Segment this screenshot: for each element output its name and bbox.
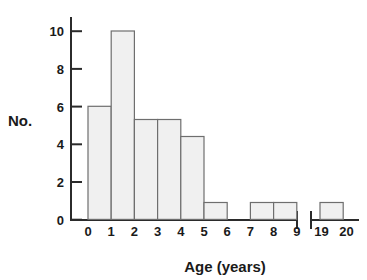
bar-3-4: [158, 120, 181, 220]
y-tick-label-2: 2: [57, 175, 64, 190]
x-tick-label-2: 2: [131, 224, 138, 239]
x-axis-title: Age (years): [184, 258, 266, 275]
bar-8-9: [274, 203, 297, 220]
y-tick-label-8: 8: [57, 62, 64, 77]
x-tick-label-9: 9: [293, 224, 300, 239]
y-tick-label-0: 0: [57, 213, 64, 228]
x-tick-label-5: 5: [200, 224, 207, 239]
chart-canvas: 10 8 6 4 2 0 No. 0 1 2 3 4: [0, 0, 367, 280]
bar-5-6: [204, 203, 227, 220]
y-tick-label-6: 6: [57, 100, 64, 115]
x-tick-label-4: 4: [177, 224, 185, 239]
x-tick-label-3: 3: [154, 224, 161, 239]
x-tick-label-7: 7: [247, 224, 254, 239]
x-tick-label-20: 20: [339, 224, 353, 239]
x-tick-label-19: 19: [314, 224, 328, 239]
bar-4-5: [181, 137, 204, 220]
x-tick-label-6: 6: [224, 224, 231, 239]
x-tick-label-0: 0: [84, 224, 91, 239]
bar-19-20: [320, 203, 343, 220]
bar-0-1: [88, 106, 111, 219]
x-tick-label-1: 1: [108, 224, 115, 239]
y-axis-title: No.: [8, 112, 32, 129]
y-tick-label-4: 4: [57, 137, 65, 152]
y-tick-label-10: 10: [50, 24, 64, 39]
bars-group: [88, 31, 343, 219]
bar-1-2: [111, 31, 134, 219]
bar-7-8: [250, 203, 273, 220]
x-tick-label-8: 8: [270, 224, 277, 239]
bar-2-3: [134, 120, 157, 220]
y-axis-ticks: [71, 31, 82, 220]
histogram-chart: 10 8 6 4 2 0 No. 0 1 2 3 4: [0, 0, 367, 280]
